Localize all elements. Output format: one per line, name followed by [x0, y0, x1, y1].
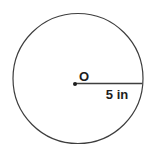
radius-label: 5 in	[106, 87, 128, 102]
center-label: O	[79, 69, 89, 84]
circle-diagram-canvas: O 5 in	[0, 0, 157, 159]
geometry-figure: O 5 in	[0, 0, 157, 159]
center-point-dot	[73, 82, 77, 86]
